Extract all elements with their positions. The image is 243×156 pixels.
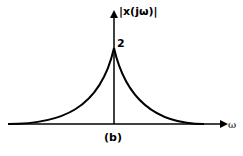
curve-right — [114, 48, 204, 124]
x-axis-arrow-icon — [220, 120, 228, 128]
curve-left — [8, 48, 114, 124]
figure-caption: (b) — [104, 131, 122, 144]
peak-value-label: 2 — [117, 37, 125, 50]
y-axis-label: |x(jω)| — [119, 5, 158, 18]
y-axis-arrow-icon — [110, 10, 118, 18]
x-axis-label: ω — [228, 119, 236, 130]
